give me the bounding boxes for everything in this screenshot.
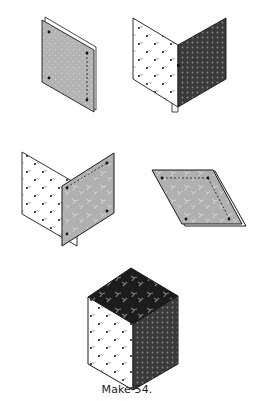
corner-dot [86,99,89,102]
step-2-opened-pair [133,18,226,112]
hinge-dot [177,64,180,67]
corner-dot [86,52,89,55]
corner-dot [66,233,69,236]
step-1-layered-rhombus [42,17,96,112]
corner-dot [161,177,164,180]
corner-dot [106,162,109,165]
quilt-block-diagram [0,0,254,401]
corner-dot [228,218,231,221]
light-floral-rhombus [133,18,178,107]
corner-dot [48,77,51,80]
dark-dotted-rhombus [178,18,226,107]
step-5-tumbling-block [88,268,178,390]
step-4-flat-rhombus [152,170,246,226]
figure-caption: Make 54. [0,383,254,396]
corner-dot [106,210,109,213]
gray-leaf-rhombus [62,153,114,246]
corner-dot [207,177,210,180]
step-3-opened-pair [22,152,114,246]
corner-dot [48,31,51,34]
corner-dot [66,187,69,190]
corner-dot [185,218,188,221]
